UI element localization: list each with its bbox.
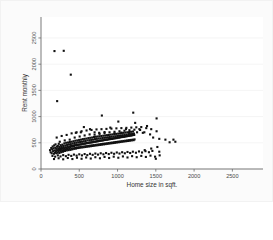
data-point	[89, 137, 91, 139]
data-point	[90, 129, 92, 131]
data-point	[91, 137, 93, 139]
data-point	[92, 139, 94, 141]
data-point	[100, 152, 102, 154]
data-point	[95, 128, 97, 130]
data-point	[65, 155, 67, 157]
data-point	[102, 135, 104, 137]
y-tick-label: 2500	[31, 32, 37, 44]
data-point	[79, 141, 81, 143]
data-point	[150, 148, 152, 150]
data-point	[81, 130, 83, 132]
data-point	[58, 157, 60, 159]
data-point	[63, 50, 65, 52]
y-tick-label: 1000	[31, 110, 37, 122]
data-point	[128, 131, 130, 133]
data-point	[66, 134, 68, 136]
data-point	[58, 152, 60, 154]
x-tick-label: 1500	[150, 173, 162, 179]
data-point	[105, 128, 107, 130]
data-point	[81, 158, 83, 160]
data-point	[71, 158, 73, 160]
data-point	[102, 153, 104, 155]
data-point	[118, 130, 120, 132]
data-point	[88, 139, 90, 141]
data-point	[84, 134, 86, 136]
data-point	[101, 114, 103, 116]
data-point	[86, 154, 88, 156]
data-point	[108, 157, 110, 159]
data-point	[86, 129, 88, 131]
data-point	[104, 134, 106, 136]
data-point	[136, 156, 138, 158]
data-point	[110, 128, 112, 130]
data-point	[94, 131, 96, 133]
data-point	[101, 137, 103, 139]
data-point	[62, 145, 64, 147]
data-point	[58, 143, 60, 145]
data-point	[149, 155, 151, 157]
data-point	[109, 136, 111, 138]
y-tick-label: 1500	[31, 84, 37, 96]
data-point	[90, 139, 92, 141]
data-point	[56, 100, 58, 102]
data-point	[89, 133, 91, 135]
data-point	[125, 127, 127, 129]
data-point	[69, 141, 71, 143]
y-tick-label: 2000	[31, 58, 37, 70]
data-point	[62, 158, 64, 160]
data-point	[76, 157, 78, 159]
data-point	[135, 126, 137, 128]
data-point	[150, 128, 152, 130]
data-point	[149, 133, 151, 135]
data-point	[67, 141, 69, 143]
data-point	[82, 138, 84, 140]
data-point	[156, 117, 158, 119]
data-point	[93, 136, 95, 138]
data-point	[126, 131, 128, 133]
data-point	[105, 137, 107, 139]
data-point	[156, 146, 158, 148]
data-point	[51, 152, 53, 154]
data-point	[135, 152, 137, 154]
data-point	[159, 154, 161, 156]
data-point	[106, 134, 108, 136]
x-axis-title: Home size in sqft.	[127, 181, 178, 189]
data-point	[136, 131, 138, 133]
data-point	[76, 155, 78, 157]
data-point	[76, 131, 78, 133]
data-point	[158, 151, 160, 153]
data-point	[164, 139, 166, 141]
x-tick-label: 500	[75, 173, 84, 179]
data-point	[68, 143, 70, 145]
data-point	[113, 133, 115, 135]
data-point	[72, 143, 74, 145]
data-point	[98, 138, 100, 140]
data-point	[112, 135, 114, 137]
data-point	[68, 154, 70, 156]
data-point	[121, 132, 123, 134]
data-point	[125, 132, 127, 134]
data-point	[130, 127, 132, 129]
data-point	[86, 139, 88, 141]
data-point	[132, 112, 134, 114]
data-point	[110, 152, 112, 154]
data-point	[57, 145, 59, 147]
data-point	[108, 153, 110, 155]
data-point	[132, 151, 134, 153]
data-point	[100, 128, 102, 130]
data-point	[156, 130, 158, 132]
data-point	[114, 135, 116, 137]
data-point	[76, 139, 78, 141]
x-tick-label: 2000	[188, 173, 200, 179]
data-point	[140, 155, 142, 157]
data-point	[97, 135, 99, 137]
data-point	[132, 130, 134, 132]
data-point	[113, 153, 115, 155]
data-point	[86, 138, 88, 140]
data-point	[151, 150, 153, 152]
data-point	[174, 141, 176, 143]
data-point	[84, 153, 86, 155]
data-point	[65, 142, 67, 144]
data-point	[54, 143, 56, 145]
data-point	[92, 154, 94, 156]
